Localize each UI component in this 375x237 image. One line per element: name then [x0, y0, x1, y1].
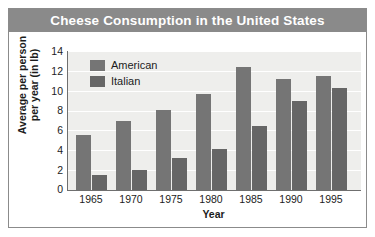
y-tick-0: 0	[47, 184, 63, 194]
legend-item-american: American	[90, 58, 157, 72]
bar-italian-1970	[132, 170, 147, 190]
legend-label-american: American	[111, 59, 157, 71]
bar-american-1980	[196, 94, 211, 190]
bar-italian-1980	[212, 149, 227, 190]
y-axis-ticks: 14 12 10 8 6 4 2 0	[45, 51, 63, 190]
legend-item-italian: Italian	[90, 74, 157, 88]
bar-american-1985	[236, 67, 251, 190]
x-tick-1970: 1970	[111, 193, 151, 205]
legend-swatch-italian-icon	[90, 76, 105, 87]
y-tick-2: 2	[47, 165, 63, 175]
x-tick-1985: 1985	[231, 193, 271, 205]
bar-italian-1975	[172, 158, 187, 190]
x-tick-1980: 1980	[191, 193, 231, 205]
chart-legend: American Italian	[90, 58, 157, 90]
bar-italian-1965	[92, 175, 107, 190]
bar-italian-1990	[292, 101, 307, 190]
page-title: Cheese Consumption in the United States	[50, 13, 324, 28]
chart-figure: Cheese Consumption in the United States …	[8, 8, 367, 228]
y-tick-4: 4	[47, 145, 63, 155]
chart-title-bar: Cheese Consumption in the United States	[9, 9, 366, 32]
x-tick-1975: 1975	[151, 193, 191, 205]
bar-group-1975	[156, 51, 189, 190]
legend-swatch-american-icon	[90, 60, 105, 71]
y-tick-10: 10	[47, 86, 63, 96]
bar-american-1975	[156, 110, 171, 190]
plot-area: American Italian	[67, 51, 361, 191]
y-tick-8: 8	[47, 105, 63, 115]
bar-italian-1995	[332, 88, 347, 190]
legend-label-italian: Italian	[111, 75, 140, 87]
y-tick-12: 12	[47, 66, 63, 76]
bar-group-1990	[276, 51, 309, 190]
bar-group-1985	[236, 51, 269, 190]
bar-american-1995	[316, 76, 331, 190]
x-tick-1995: 1995	[311, 193, 351, 205]
bar-group-1980	[196, 51, 229, 190]
y-tick-6: 6	[47, 125, 63, 135]
bar-group-1995	[316, 51, 349, 190]
bar-american-1990	[276, 79, 291, 190]
x-tick-1965: 1965	[71, 193, 111, 205]
x-axis-label: Year	[67, 208, 360, 220]
bar-american-1965	[76, 135, 91, 190]
x-tick-1990: 1990	[271, 193, 311, 205]
y-tick-14: 14	[47, 46, 63, 56]
bar-italian-1985	[252, 126, 267, 191]
y-axis-label: Average per person per year (in lb)	[16, 35, 40, 135]
bar-american-1970	[116, 121, 131, 191]
